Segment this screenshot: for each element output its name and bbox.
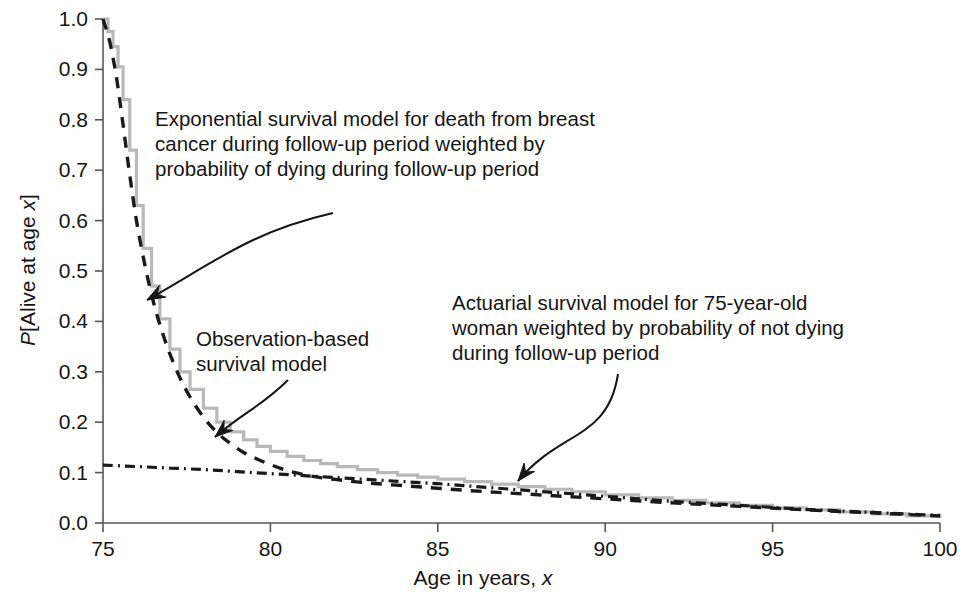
series-line (103, 19, 940, 516)
x-tick-label: 85 (426, 537, 449, 561)
axes (95, 19, 940, 532)
y-tick-label: 0.8 (24, 108, 88, 132)
survival-curve-figure: 0.00.10.20.30.40.50.60.70.80.91.0 758085… (0, 0, 966, 606)
data-series (103, 19, 940, 518)
annotation-arrow-line (215, 380, 288, 437)
annotation-actuarial-model: Actuarial survival model for 75-year-old… (452, 290, 872, 365)
y-axis-title: P[Alive at age x] (16, 150, 40, 390)
y-tick-label: 0.2 (24, 410, 88, 434)
annotation-arrow-line (147, 213, 333, 300)
x-tick-label: 80 (259, 537, 282, 561)
x-tick-label: 90 (594, 537, 617, 561)
annotation-observation-model: Observation-based survival model (196, 326, 426, 376)
y-tick-label: 0.0 (24, 511, 88, 535)
annotation-exponential-model: Exponential survival model for death fro… (155, 106, 595, 181)
x-tick-label: 75 (91, 537, 114, 561)
x-tick-label: 100 (922, 537, 957, 561)
x-tick-label: 95 (761, 537, 784, 561)
y-tick-label: 1.0 (24, 7, 88, 31)
y-tick-label: 0.1 (24, 461, 88, 485)
y-tick-label: 0.9 (24, 57, 88, 81)
x-axis-title: Age in years, x (0, 566, 966, 590)
annotation-arrow-line (518, 374, 618, 481)
